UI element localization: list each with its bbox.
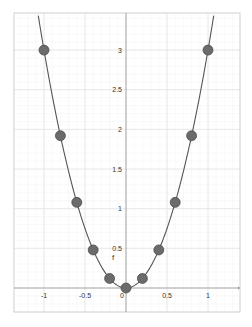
y-tick-label: 1.5 [112, 166, 122, 173]
y-tick-label: 3 [118, 47, 122, 54]
data-point[interactable] [39, 45, 49, 55]
tick-labels: -1-0.500.510.511.522.53 [41, 47, 210, 299]
data-point[interactable] [88, 245, 98, 255]
y-tick-label: 2 [118, 126, 122, 133]
data-point[interactable] [55, 131, 65, 141]
y-tick-label: 1 [118, 205, 122, 212]
data-point[interactable] [187, 131, 197, 141]
x-tick-label: -1 [41, 292, 47, 299]
function-label: f [112, 253, 115, 262]
data-point[interactable] [154, 245, 164, 255]
x-tick-label: 1 [206, 292, 210, 299]
y-tick-label: 2.5 [112, 86, 122, 93]
data-point[interactable] [203, 45, 213, 55]
data-point[interactable] [170, 197, 180, 207]
x-tick-label: -0.5 [79, 292, 91, 299]
x-tick-label: 0 [120, 292, 124, 299]
data-point[interactable] [121, 283, 131, 293]
x-tick-label: 0.5 [162, 292, 172, 299]
data-point[interactable] [72, 197, 82, 207]
function-plot[interactable]: -1-0.500.510.511.522.53 f [0, 0, 252, 327]
data-point[interactable] [105, 273, 115, 283]
y-tick-label: 0.5 [112, 245, 122, 252]
data-point[interactable] [137, 273, 147, 283]
